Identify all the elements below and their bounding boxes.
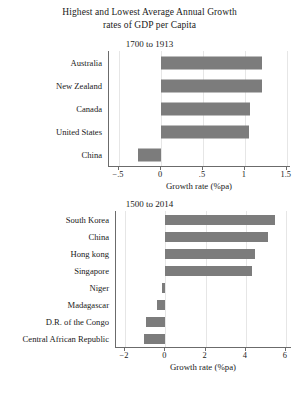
bar-row xyxy=(109,143,291,166)
category-label: D.R. of the Congo xyxy=(0,313,113,330)
x-tick-label: −2 xyxy=(120,351,129,360)
category-label: Canada xyxy=(0,97,106,120)
bar xyxy=(138,148,161,161)
chart-subtitle-1: 1700 to 1913 xyxy=(0,39,299,49)
category-label: United States xyxy=(0,120,106,143)
bar xyxy=(161,56,262,69)
bar-row xyxy=(109,97,291,120)
chart-panel-1500-2014: 1500 to 2014 South KoreaChinaHong kongSi… xyxy=(0,199,299,373)
x-tick-label: 0 xyxy=(162,351,166,360)
category-label: South Korea xyxy=(0,211,113,228)
x-axis-label: Growth rate (%pa) xyxy=(108,181,290,191)
x-axis-line xyxy=(115,347,291,348)
bar xyxy=(161,125,249,138)
chart-subtitle-2: 1500 to 2014 xyxy=(0,199,299,209)
x-axis-label: Growth rate (%pa) xyxy=(115,362,291,372)
bar-row xyxy=(116,313,292,330)
category-label: Hong kong xyxy=(0,245,113,262)
category-label: Central African Republic xyxy=(0,330,113,347)
x-tick-label: .5 xyxy=(199,170,205,179)
bar-row xyxy=(116,279,292,296)
category-label-list: South KoreaChinaHong kongSingaporeNigerM… xyxy=(0,211,113,347)
x-tick-label: 0 xyxy=(158,170,162,179)
bar-row xyxy=(116,330,292,347)
bar-row xyxy=(116,228,292,245)
x-axis-line xyxy=(108,166,290,167)
category-label: New Zealand xyxy=(0,74,106,97)
figure-title-line2: rates of GDP per Capita xyxy=(0,19,299,32)
bar xyxy=(146,317,165,327)
figure-title: Highest and Lowest Average Annual Growth… xyxy=(0,0,299,32)
bar xyxy=(165,232,268,242)
bar-row xyxy=(109,120,291,143)
category-label: China xyxy=(0,228,113,245)
plot-area-1: AustraliaNew ZealandCanadaUnited StatesC… xyxy=(0,51,299,192)
bar-row xyxy=(116,296,292,313)
x-tick-label: 1.5 xyxy=(281,170,291,179)
plot-area-2: South KoreaChinaHong kongSingaporeNigerM… xyxy=(0,211,299,373)
x-tick-label: 6 xyxy=(283,351,287,360)
chart-panel-1700-1913: 1700 to 1913 AustraliaNew ZealandCanadaU… xyxy=(0,39,299,192)
bar-row xyxy=(116,262,292,279)
bar xyxy=(165,249,255,259)
bar xyxy=(165,215,275,225)
bars-container xyxy=(108,51,291,166)
bar xyxy=(161,102,250,115)
figure-title-line1: Highest and Lowest Average Annual Growth xyxy=(0,6,299,19)
x-tick-label: −.5 xyxy=(113,170,124,179)
category-label-list: AustraliaNew ZealandCanadaUnited StatesC… xyxy=(0,51,106,166)
category-label: Australia xyxy=(0,51,106,74)
category-label: Niger xyxy=(0,279,113,296)
x-tick-label: 2 xyxy=(202,351,206,360)
bar xyxy=(165,266,251,276)
bar-row xyxy=(116,245,292,262)
bars-container xyxy=(115,211,292,347)
category-label: China xyxy=(0,143,106,166)
bar xyxy=(157,300,165,310)
bar xyxy=(144,334,165,344)
bar-row xyxy=(109,74,291,97)
category-label: Singapore xyxy=(0,262,113,279)
x-tick-label: 1 xyxy=(242,170,246,179)
bar-row xyxy=(116,211,292,228)
bar xyxy=(162,283,165,293)
bar-row xyxy=(109,51,291,74)
bar xyxy=(161,79,262,92)
x-tick-label: 4 xyxy=(243,351,247,360)
category-label: Madagascar xyxy=(0,296,113,313)
